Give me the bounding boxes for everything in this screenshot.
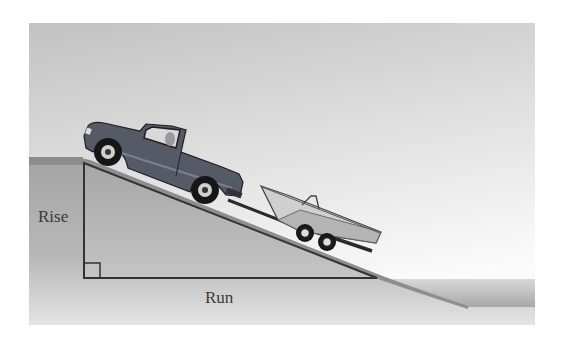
top-ground-edge	[29, 157, 83, 164]
run-label: Run	[205, 289, 233, 306]
driver-silhouette	[165, 132, 175, 146]
rise-label: Rise	[38, 208, 68, 225]
boat-ramp-diagram	[0, 0, 567, 343]
